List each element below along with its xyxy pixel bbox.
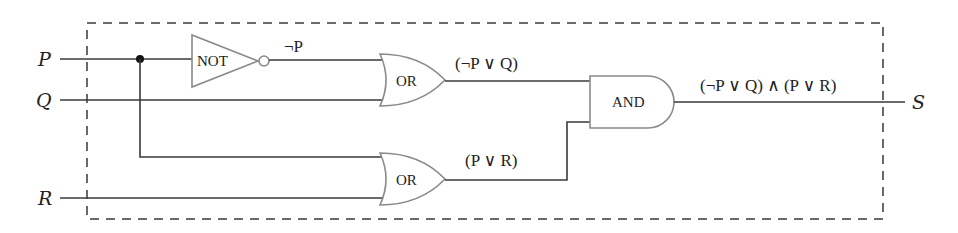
or-gate-bottom: OR: [380, 153, 445, 205]
and-gate-label: AND: [612, 94, 645, 110]
logic-circuit-diagram: P Q R NOT ¬P OR (¬P ∨ Q) OR (P ∨ R) AND …: [0, 0, 958, 233]
not-p-label: ¬P: [284, 37, 303, 56]
p-or-r-label: (P ∨ R): [465, 151, 517, 170]
or-gate-top-label: OR: [396, 73, 417, 89]
input-label-r: R: [37, 187, 52, 209]
output-label-s: S: [912, 91, 925, 113]
not-gate: NOT: [192, 35, 269, 87]
and-gate: AND: [590, 76, 674, 128]
input-label-p: P: [37, 48, 52, 70]
or-gate-bottom-label: OR: [396, 172, 417, 188]
not-gate-label: NOT: [197, 53, 228, 69]
and-output-label: (¬P ∨ Q) ∧ (P ∨ R): [700, 76, 836, 95]
or-gate-top: OR: [380, 54, 445, 106]
wire-p-branch: [140, 59, 385, 157]
not-p-or-q-label: (¬P ∨ Q): [455, 54, 518, 73]
inversion-bubble-icon: [259, 56, 269, 66]
input-label-q: Q: [36, 89, 52, 111]
